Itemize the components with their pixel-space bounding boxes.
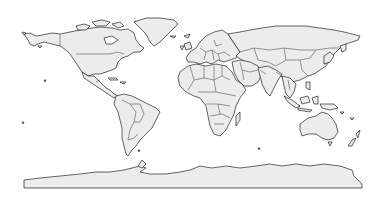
north-america [22,20,144,76]
madagascar [236,112,240,126]
world-map [0,0,384,200]
antarctica [24,160,362,188]
south-america [114,94,160,156]
new-zealand [348,130,360,146]
world-map-svg [0,0,384,200]
greenland [134,18,178,46]
australia [300,112,338,146]
central-america-caribbean [44,72,126,98]
